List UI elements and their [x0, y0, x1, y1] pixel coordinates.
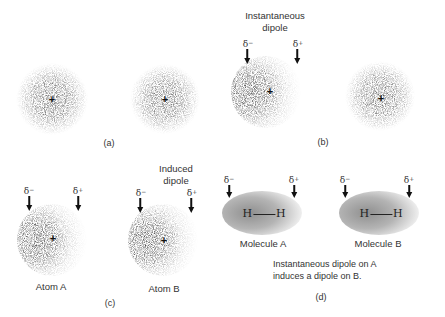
molecule-a-structure: HH: [242, 208, 285, 220]
nucleus-plus-icon: +: [378, 93, 384, 104]
electron-cloud-layer: [0, 0, 445, 317]
arrow-down-icon: [190, 198, 192, 208]
instantaneous-dipole-title: Instantaneous dipole: [245, 10, 305, 34]
delta-plus-label: δ+: [293, 39, 303, 49]
delta-minus-label: δ−: [136, 188, 146, 198]
delta-plus-label: δ+: [187, 188, 197, 198]
molecule-a-caption: Molecule A: [240, 238, 286, 249]
panel-label: (b): [318, 137, 329, 148]
delta-minus-label: δ−: [340, 175, 350, 185]
induced-dipole-title: Induced dipole: [159, 163, 193, 187]
arrow-down-icon: [228, 185, 230, 193]
panel-label: (c): [105, 298, 116, 309]
bond-line: [370, 214, 392, 215]
delta-plus-label: δ+: [289, 175, 299, 185]
nucleus-plus-icon: +: [162, 94, 168, 105]
nucleus-plus-icon: +: [50, 233, 56, 244]
delta-minus-label: δ−: [24, 186, 34, 196]
arrow-down-icon: [293, 185, 295, 193]
molecule-b-caption: Molecule B: [355, 238, 402, 249]
nucleus-plus-icon: +: [161, 235, 167, 246]
arrow-down-icon: [408, 185, 410, 193]
delta-plus-label: δ+: [73, 186, 83, 196]
arrow-down-icon: [28, 196, 30, 206]
arrow-down-icon: [344, 185, 346, 193]
arrow-down-icon: [139, 198, 141, 208]
panel-label: (a): [104, 138, 115, 149]
delta-minus-label: δ−: [243, 39, 253, 49]
bond-line: [253, 214, 275, 215]
panel-d-description: Instantaneous dipole on A induces a dipo…: [273, 258, 377, 282]
atom-a-caption: Atom A: [36, 281, 67, 292]
delta-minus-label: δ−: [224, 175, 234, 185]
nucleus-plus-icon: +: [267, 86, 273, 97]
atom-b-caption: Atom B: [148, 283, 179, 294]
arrow-down-icon: [246, 49, 248, 59]
delta-plus-label: δ+: [404, 175, 414, 185]
arrow-down-icon: [296, 49, 298, 59]
arrow-down-icon: [77, 196, 79, 206]
nucleus-plus-icon: +: [49, 94, 55, 105]
molecule-b-structure: HH: [359, 208, 402, 220]
panel-label: (d): [316, 292, 327, 303]
